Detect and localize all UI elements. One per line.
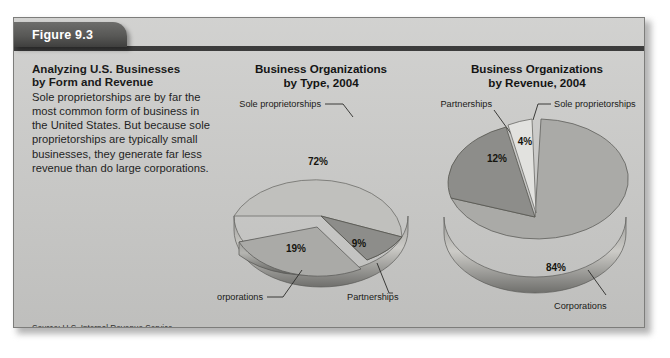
chart-by-revenue-title-line2: by Revenue, 2004 [488, 76, 585, 89]
caption-body: Sole proprietorships are by far the most… [32, 90, 214, 175]
chart-by-revenue-title: Business Organizations by Revenue, 2004 [428, 54, 645, 89]
value-label-partnerships: 9% [352, 238, 367, 249]
callout-label-partnerships: Partnerships [347, 292, 399, 302]
value-label-rev-corporations: 84% [546, 262, 566, 273]
callout-label-rev-corporations: Corporations [554, 301, 607, 311]
value-label-sole-proprietorships: 72% [308, 156, 328, 167]
leader-line-sole-proprietorships [325, 104, 353, 117]
figure-panel: Figure 9.3 Analyzing U.S. Businesses by … [13, 17, 645, 328]
caption-heading: Analyzing U.S. Businesses by Form and Re… [32, 62, 214, 89]
chart-by-type-title-line2: by Type, 2004 [283, 76, 358, 89]
callout-label-corporations: Corporations [217, 292, 263, 302]
callout-label-rev-partnerships: Partnerships [440, 99, 492, 109]
chart-by-revenue-title-line1: Business Organizations [471, 62, 603, 75]
callout-label-rev-sole-proprietorships: Sole proprietorships [554, 99, 636, 109]
value-label-corporations: 19% [286, 243, 306, 254]
caption-heading-line2: by Form and Revenue [32, 75, 153, 88]
figure-caption-block: Analyzing U.S. Businesses by Form and Re… [32, 62, 214, 175]
figure-number-label: Figure 9.3 [32, 28, 93, 42]
chart-by-type-title: Business Organizations by Type, 2004 [217, 54, 425, 89]
figure-stage: Figure 9.3 Analyzing U.S. Businesses by … [0, 0, 670, 358]
chart-by-type-title-line1: Business Organizations [255, 62, 387, 75]
caption-heading-line1: Analyzing U.S. Businesses [32, 62, 180, 75]
source-note: Source: U.S. Internal Revenue Service. [32, 324, 175, 328]
pie-by-type: Sole proprietorships 72% 19% [217, 89, 425, 317]
pie-by-revenue: Partnerships Sole proprietorships 84% 12… [428, 89, 645, 317]
value-label-rev-partnerships: 12% [487, 153, 507, 164]
chart-business-by-type: Business Organizations by Type, 2004 [217, 54, 425, 324]
figure-number-tab: Figure 9.3 [14, 22, 127, 47]
chart-business-by-revenue: Business Organizations by Revenue, 2004 … [428, 54, 645, 324]
value-label-rev-sole-proprietorships: 4% [518, 136, 533, 147]
callout-label-sole-proprietorships: Sole proprietorships [239, 99, 321, 109]
leader-line-rev-sole-proprietorships [533, 104, 551, 120]
